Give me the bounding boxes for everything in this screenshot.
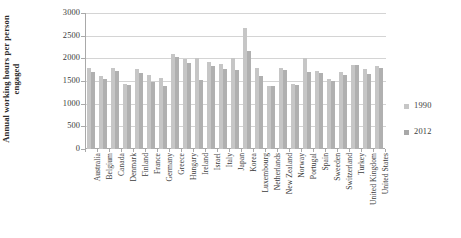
legend: 1990 2012 — [404, 98, 460, 150]
x-axis-tick-labels: AustraliaBelgiumCanadaDenmarkFinlandFran… — [85, 149, 385, 235]
y-axis-tick-label: 500 — [10, 122, 80, 130]
x-axis-tick-mark — [217, 149, 218, 152]
bar-2012[interactable] — [223, 69, 227, 149]
x-axis-tick-label: United States — [382, 112, 390, 153]
legend-label-1990: 1990 — [414, 102, 432, 110]
x-axis-tick-label: Switzerland — [346, 116, 354, 153]
bar-1990[interactable] — [231, 58, 235, 149]
legend-label-2012: 2012 — [414, 128, 432, 136]
x-axis-tick-label: New Zealand — [286, 112, 294, 153]
bar-group — [205, 13, 217, 149]
x-axis-tick-mark — [325, 149, 326, 152]
x-axis-tick-mark — [97, 149, 98, 152]
bar-1990[interactable] — [87, 68, 91, 149]
x-axis-tick-mark — [157, 149, 158, 152]
bar-1990[interactable] — [243, 28, 247, 149]
x-axis-tick-mark — [85, 149, 86, 152]
x-axis-tick-mark — [205, 149, 206, 152]
x-axis-tick-mark — [313, 149, 314, 152]
x-axis-tick-mark — [277, 149, 278, 152]
y-axis-tick-label: 2500 — [10, 32, 80, 40]
x-axis-tick-mark — [169, 149, 170, 152]
x-axis-tick-label: United Kingdom — [370, 101, 378, 153]
x-axis-tick-mark — [301, 149, 302, 152]
legend-swatch-icon-1990 — [404, 104, 409, 109]
x-axis-tick-mark — [253, 149, 254, 152]
x-axis-tick-mark — [241, 149, 242, 152]
x-axis-tick-mark — [349, 149, 350, 152]
x-axis-tick-mark — [109, 149, 110, 152]
bar-group — [229, 13, 241, 149]
x-axis-tick-mark — [373, 149, 374, 152]
x-axis-tick-mark — [229, 149, 230, 152]
x-axis-tick-mark — [289, 149, 290, 152]
y-axis-tick-label: 1500 — [10, 77, 80, 85]
legend-swatch-icon-2012 — [404, 130, 409, 135]
bar-group — [241, 13, 253, 149]
x-axis-tick-mark — [385, 149, 386, 152]
y-axis-tick-label: 0 — [10, 145, 80, 153]
x-axis-tick-mark — [145, 149, 146, 152]
x-axis-tick-mark — [193, 149, 194, 152]
legend-item-1990[interactable]: 1990 — [404, 98, 460, 114]
bar-chart: Annual working hours per person engaged … — [0, 0, 461, 238]
x-axis-tick-mark — [133, 149, 134, 152]
x-axis-tick-mark — [337, 149, 338, 152]
x-axis-tick-mark — [265, 149, 266, 152]
legend-item-2012[interactable]: 2012 — [404, 124, 460, 140]
y-axis-tick-label: 2000 — [10, 54, 80, 62]
y-axis-tick-label: 3000 — [10, 9, 80, 17]
x-axis-tick-mark — [181, 149, 182, 152]
x-axis-tick-label: Luxembourg — [262, 113, 270, 153]
x-axis-tick-mark — [121, 149, 122, 152]
bar-group — [217, 13, 229, 149]
x-axis-tick-mark — [361, 149, 362, 152]
x-axis-tick-label: Netherlands — [274, 116, 282, 153]
y-axis-tick-label: 1000 — [10, 100, 80, 108]
